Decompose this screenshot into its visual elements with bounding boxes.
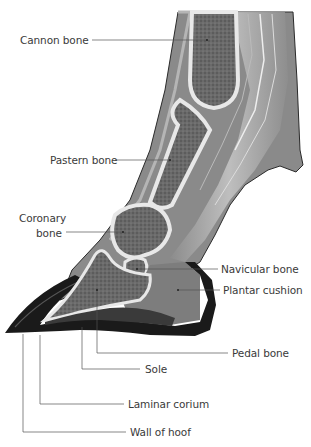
label-coronary-bone-line2: bone — [36, 227, 62, 239]
label-laminar-corium: Laminar corium — [128, 398, 209, 410]
label-coronary-bone-line1: Coronary — [19, 212, 66, 224]
hoof-anatomy-diagram: Cannon bone Pastern bone Coronary bone N… — [0, 0, 311, 447]
cannon-bone-shape — [190, 12, 238, 108]
label-sole: Sole — [145, 363, 167, 375]
label-wall-of-hoof: Wall of hoof — [130, 426, 191, 438]
label-navicular-bone: Navicular bone — [221, 263, 299, 275]
label-plantar-cushion: Plantar cushion — [223, 284, 303, 296]
label-pedal-bone: Pedal bone — [232, 347, 289, 359]
label-pastern-bone: Pastern bone — [50, 154, 117, 166]
label-cannon-bone: Cannon bone — [20, 34, 89, 46]
